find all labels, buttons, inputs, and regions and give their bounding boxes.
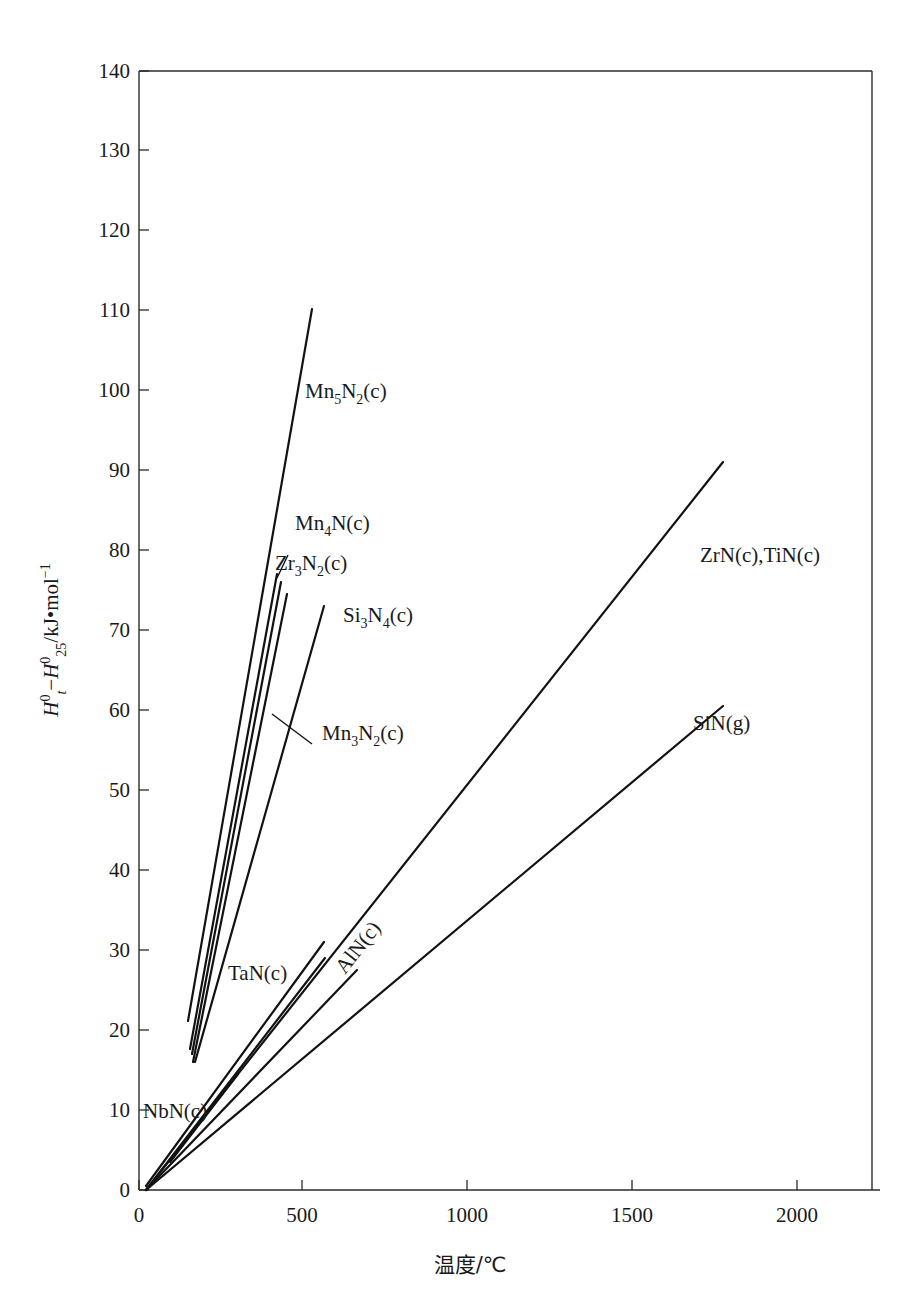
xtick-label: 1500 [611,1203,653,1227]
x-axis-title: 温度/℃ [434,1253,507,1277]
xtick-label: 1000 [446,1203,488,1227]
series-label-mn5n2: Mn5N2(c) [305,379,387,407]
ytick-label: 70 [109,618,130,642]
ytick-label: 50 [109,778,130,802]
ytick-label: 60 [109,698,130,722]
ytick-label: 90 [109,458,130,482]
chart-figure: 0 10 20 30 40 50 60 70 80 90 100 110 120… [0,0,917,1305]
series-label-si3n4: Si3N4(c) [343,603,413,631]
y-axis-ticks [139,71,149,1190]
series-label-zrn-tin: ZrN(c),TiN(c) [700,543,820,567]
ytick-label: 80 [109,538,130,562]
y-axis-tick-labels: 0 10 20 30 40 50 60 70 80 90 100 110 120… [99,59,131,1202]
svg-text:H0t−H025/kJ•mol−1: H0t−H025/kJ•mol−1 [38,563,69,718]
x-axis-ticks [139,1180,797,1190]
curve-mn5n2 [188,309,312,1021]
yaxis-sup0-a: 0 [38,695,53,702]
xtick-label: 0 [134,1203,145,1227]
series-label-tan: TaN(c) [228,961,287,985]
series-label-mn3n2: Mn3N2(c) [322,721,404,749]
ytick-label: 120 [99,218,131,242]
xtick-label: 2000 [776,1203,818,1227]
data-curves [146,309,723,1190]
series-label-mn4n: Mn4N(c) [295,511,370,539]
series-label-sin-g: SiN(g) [693,711,750,735]
yaxis-units: /kJ•mol [39,578,63,643]
ytick-label: 100 [99,378,131,402]
series-label-zr3n2: Zr3N2(c) [275,551,347,579]
plot-frame [139,71,880,1190]
curve-mn3n2 [193,594,287,1062]
curve-aln [146,970,357,1190]
curve-zrn-tin [146,462,723,1190]
ytick-label: 140 [99,59,131,83]
series-label-nbn: NbN(c) [143,1099,207,1123]
ytick-label: 40 [109,858,130,882]
x-axis-tick-labels: 0 500 1000 1500 2000 [134,1203,818,1227]
ytick-label: 10 [109,1098,130,1122]
ytick-label: 110 [99,298,130,322]
y-axis-title: H0t−H025/kJ•mol−1 [38,563,69,718]
ytick-label: 130 [99,138,131,162]
curve-sin-g [146,706,723,1190]
yaxis-minus: − [39,679,63,691]
ytick-label: 20 [109,1018,130,1042]
ytick-label: 30 [109,938,130,962]
chart-canvas: 0 10 20 30 40 50 60 70 80 90 100 110 120… [0,0,917,1305]
ytick-label: 0 [120,1178,131,1202]
xtick-label: 500 [286,1203,318,1227]
yaxis-sub-25: 25 [54,643,69,657]
yaxis-sup0-b: 0 [38,657,53,664]
yaxis-sup-neg1: −1 [38,563,53,578]
